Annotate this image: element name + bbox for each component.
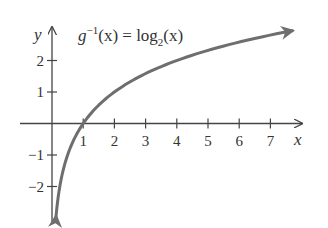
y-tick-label: −2: [28, 179, 44, 195]
x-tick-label: 5: [204, 133, 212, 149]
chart-title: g−1(x) = log2(x): [78, 24, 183, 48]
y-tick-label: 2: [37, 53, 45, 69]
x-tick-label: 3: [142, 133, 150, 149]
x-tick-label: 4: [173, 133, 181, 149]
x-tick-label: 1: [79, 133, 87, 149]
x-tick-label: 6: [235, 133, 243, 149]
x-tick-label: 2: [111, 133, 119, 149]
y-tick-label: 1: [37, 84, 45, 100]
x-tick-label: 7: [267, 133, 275, 149]
title-fn: g: [78, 26, 87, 45]
x-axis-label: x: [293, 130, 302, 149]
title-arg: (x) = log: [98, 26, 158, 45]
title-sup: −1: [87, 24, 99, 36]
title-tail: (x): [163, 26, 183, 45]
y-tick-label: −1: [28, 147, 44, 163]
log2-graph: 1234567 21−1−2 x y g−1(x) = log2(x): [0, 0, 328, 228]
y-axis-label: y: [32, 25, 42, 44]
